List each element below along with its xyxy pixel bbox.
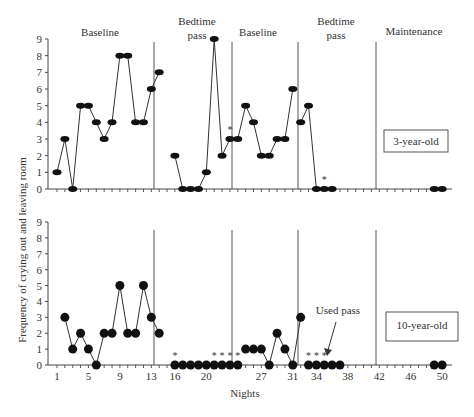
y-tick-label: 6	[37, 264, 43, 276]
data-point	[139, 281, 148, 290]
data-point	[430, 186, 439, 192]
panel-label-top: 3-year-old	[393, 135, 439, 147]
x-tick-label: 5	[86, 370, 92, 382]
data-point	[115, 53, 124, 59]
data-point	[320, 186, 329, 192]
y-tick-label: 5	[37, 280, 43, 292]
data-point	[155, 329, 164, 338]
panel-label-bottom: 10-year-old	[396, 319, 448, 331]
data-point	[312, 186, 321, 192]
x-tick-label: 46	[405, 370, 417, 382]
phase-change-lines	[154, 42, 376, 365]
data-point	[280, 345, 289, 354]
asterisk-marker: *	[212, 350, 217, 361]
data-point	[312, 361, 321, 370]
x-axis-label: Nights	[230, 387, 259, 399]
y-tick-label: 7	[37, 248, 43, 260]
x-tick-label: 50	[437, 370, 449, 382]
y-tick-label: 4	[37, 116, 43, 128]
y-tick-label: 9	[37, 216, 43, 228]
data-point	[60, 313, 69, 322]
data-point	[178, 361, 187, 370]
data-point	[100, 136, 109, 142]
x-tick-label: 38	[342, 370, 354, 382]
data-point	[100, 329, 109, 338]
data-point	[288, 86, 297, 92]
y-tick-label: 3	[37, 311, 43, 323]
data-point	[147, 313, 156, 322]
data-point	[257, 153, 266, 159]
data-point	[186, 186, 195, 192]
data-point	[92, 119, 101, 125]
data-point	[131, 119, 140, 125]
asterisk-marker: *	[306, 350, 311, 361]
x-tick-label: 27	[256, 370, 268, 382]
data-point	[249, 119, 258, 125]
data-point	[147, 86, 156, 92]
phase-label-maintenance: Maintenance	[386, 25, 443, 37]
x-tick-label: 1	[54, 370, 60, 382]
phase-label-bedtime-1b: pass	[188, 29, 207, 41]
data-point	[249, 345, 258, 354]
data-point	[335, 361, 344, 370]
data-point	[304, 361, 313, 370]
data-point	[123, 53, 132, 59]
data-point	[225, 361, 234, 370]
y-tick-label: 9	[37, 33, 43, 45]
data-point	[155, 69, 164, 75]
x-tick-label: 13	[146, 370, 158, 382]
series-line	[175, 39, 230, 189]
data-point	[108, 329, 117, 338]
asterisk-marker: *	[172, 350, 177, 361]
series-line	[65, 286, 159, 365]
x-tick-label: 20	[201, 370, 213, 382]
data-point	[202, 169, 211, 175]
series-line	[301, 106, 332, 189]
data-point	[438, 361, 447, 370]
data-point	[257, 345, 266, 354]
asterisk-marker: *	[322, 174, 327, 185]
data-point	[108, 119, 117, 125]
data-point	[265, 361, 274, 370]
asterisk-marker: *	[235, 350, 240, 361]
asterisk-marker: *	[314, 350, 319, 361]
data-point	[265, 153, 274, 159]
data-point	[178, 186, 187, 192]
data-point	[76, 329, 85, 338]
data-point	[131, 329, 140, 338]
data-point	[76, 103, 85, 109]
y-tick-label: 3	[37, 133, 43, 145]
data-point	[225, 136, 234, 142]
data-point	[328, 361, 337, 370]
series-line	[238, 89, 293, 156]
data-point	[194, 361, 203, 370]
data-point	[296, 313, 305, 322]
asterisk-marker: *	[227, 124, 232, 135]
data-point	[273, 329, 282, 338]
data-point	[241, 103, 250, 109]
data-point	[84, 345, 93, 354]
data-point	[288, 361, 297, 370]
used-pass-arrow	[328, 322, 336, 350]
data-point	[218, 153, 227, 159]
y-tick-label: 7	[37, 66, 43, 78]
x-tick-label: 16	[169, 370, 181, 382]
data-point	[60, 136, 69, 142]
data-point	[438, 186, 447, 192]
x-tick-label: 34	[311, 370, 323, 382]
data-point	[233, 361, 242, 370]
asterisk-marker: *	[227, 350, 232, 361]
y-tick-label: 8	[37, 232, 43, 244]
data-point	[273, 136, 282, 142]
x-tick-label: 42	[374, 370, 385, 382]
data-point	[68, 186, 77, 192]
data-point	[218, 361, 227, 370]
phase-label-bedtime-1a: Bedtime	[178, 15, 215, 27]
phase-label-baseline-1: Baseline	[81, 26, 119, 38]
data-point	[202, 361, 211, 370]
y-tick-label: 2	[37, 150, 43, 162]
data-point	[296, 119, 305, 125]
data-point	[280, 136, 289, 142]
data-point	[194, 186, 203, 192]
data-point	[210, 36, 219, 42]
